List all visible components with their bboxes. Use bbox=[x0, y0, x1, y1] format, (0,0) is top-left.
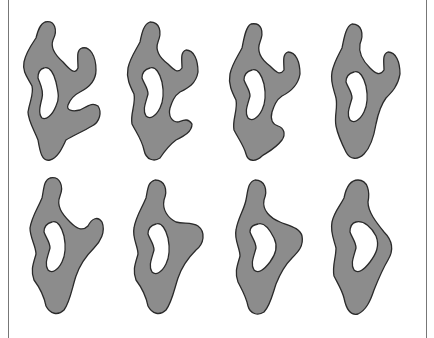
shape-5 bbox=[30, 178, 103, 314]
shape-2 bbox=[127, 22, 198, 160]
shape-7 bbox=[236, 180, 303, 314]
shape-6 bbox=[134, 180, 204, 313]
shape-4 bbox=[331, 24, 400, 158]
shape-8 bbox=[331, 180, 391, 314]
shape-3 bbox=[229, 24, 300, 161]
shape-1 bbox=[24, 22, 100, 161]
